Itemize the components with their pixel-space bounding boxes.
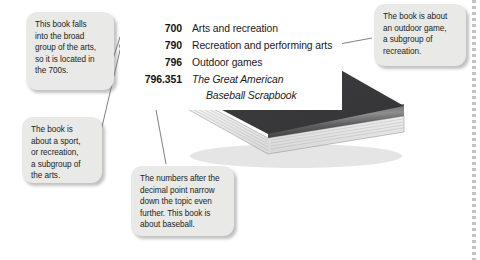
callout-line: the 700s. bbox=[35, 65, 106, 77]
callout-sport: The book is about a sport, or recreation… bbox=[22, 117, 102, 183]
dewey-row: Baseball Scrapbook bbox=[126, 90, 341, 107]
callout-line: so it is located in bbox=[35, 54, 106, 66]
dewey-number: 700 bbox=[126, 22, 182, 34]
callout-line: about a sport, bbox=[31, 136, 94, 148]
dewey-label: Arts and recreation bbox=[192, 23, 278, 34]
callout-line: The book is about bbox=[383, 11, 458, 23]
callout-line: The book is bbox=[31, 124, 94, 136]
callout-line: about baseball. bbox=[140, 219, 226, 231]
callout-line: decimal point narrow bbox=[140, 185, 226, 197]
callout-line: down the topic even bbox=[140, 196, 226, 208]
dewey-label: Outdoor games bbox=[192, 57, 262, 68]
dewey-classification-list: 700 Arts and recreation 790 Recreation a… bbox=[126, 22, 341, 107]
callout-line: a subgroup of bbox=[31, 159, 94, 171]
callout-line: into the broad bbox=[35, 31, 106, 43]
dewey-label: Recreation and performing arts bbox=[192, 40, 332, 51]
callout-line: further. This book is bbox=[140, 208, 226, 220]
callout-broad-group: This book falls into the broad group of … bbox=[26, 12, 114, 90]
callout-line: The numbers after the bbox=[140, 173, 226, 185]
dewey-number: 796 bbox=[126, 56, 182, 68]
dewey-row: 796.351 The Great American bbox=[126, 73, 341, 90]
callout-line: group of the arts, bbox=[35, 42, 106, 54]
perforated-page-edge bbox=[472, 0, 476, 260]
callout-line: recreation. bbox=[383, 46, 458, 58]
callout-line: an outdoor game, bbox=[383, 23, 458, 35]
callout-line: This book falls bbox=[35, 19, 106, 31]
figure-canvas: 700 Arts and recreation 790 Recreation a… bbox=[0, 0, 480, 260]
callout-decimal: The numbers after the decimal point narr… bbox=[131, 166, 234, 236]
book-title-line-1: The Great American bbox=[192, 74, 283, 85]
dewey-number: 790 bbox=[126, 39, 182, 51]
dewey-row: 700 Arts and recreation bbox=[126, 22, 341, 39]
dewey-number: 796.351 bbox=[126, 73, 182, 85]
callout-line: or recreation, bbox=[31, 147, 94, 159]
callout-line: the arts. bbox=[31, 170, 94, 182]
dewey-row: 796 Outdoor games bbox=[126, 56, 341, 73]
book-title-line-2: Baseball Scrapbook bbox=[192, 90, 297, 101]
callout-outdoor: The book is about an outdoor game, a sub… bbox=[374, 4, 466, 66]
dewey-row: 790 Recreation and performing arts bbox=[126, 39, 341, 56]
callout-line: a subgroup of bbox=[383, 34, 458, 46]
